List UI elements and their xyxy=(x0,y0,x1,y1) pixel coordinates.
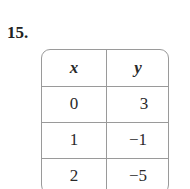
cell-x: 1 xyxy=(42,122,106,158)
cell-x: 0 xyxy=(42,86,106,122)
cell-y: −1 xyxy=(106,122,170,158)
cell-x: 2 xyxy=(42,158,106,189)
cell-y: 3 xyxy=(112,86,176,122)
cell-y: −5 xyxy=(106,158,170,189)
header-y: y xyxy=(106,50,170,86)
header-x: x xyxy=(42,50,106,86)
xy-table: x y 0 3 1 −1 2 −5 xyxy=(41,49,169,189)
problem-number: 15. xyxy=(7,23,28,43)
